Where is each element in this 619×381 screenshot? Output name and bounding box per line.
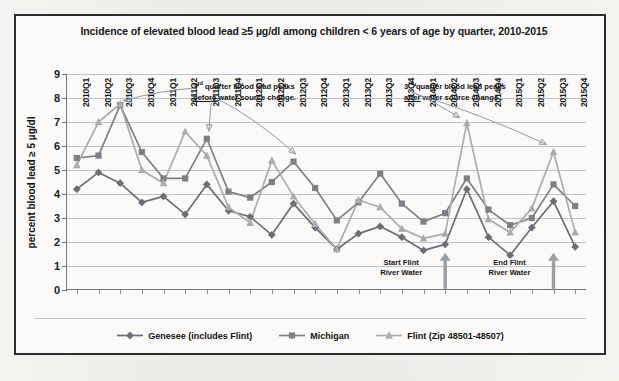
chart-legend: Genesee (includes Flint)MichiganFlint (Z… [16,330,604,341]
y-tick-label: 1 [54,260,60,272]
y-tick-label: 8 [54,92,60,104]
data-point-triangle [441,229,449,236]
legend-divider [34,318,586,319]
y-tick-label: 0 [54,284,60,296]
legend-label: Flint (Zip 48501-48507) [407,331,504,341]
data-point-diamond [420,247,428,255]
legend-label: Michigan [310,331,349,341]
y-tick-mark [62,290,67,291]
data-point-square [334,217,340,223]
series-line [77,172,575,255]
data-point-square [290,159,296,165]
y-tick-label: 4 [54,188,60,200]
annotation-before-line2: before water source change. [193,92,296,103]
y-tick-label: 2 [54,236,60,248]
data-point-triangle [528,204,536,211]
data-point-square [485,207,491,213]
annotation-before-line1: 3rd quarter blood lead peaks [193,78,296,92]
data-point-square [139,149,145,155]
y-tick-label: 5 [54,164,60,176]
data-point-square [529,215,535,221]
data-point-square [74,155,80,161]
annotation-before-water-change: 3rd quarter blood lead peaks before wate… [193,78,296,103]
data-point-triangle [138,166,146,173]
y-tick-label: 6 [54,140,60,152]
data-point-square [289,332,295,338]
y-axis-label: percent blood lead ≥ 5 µg/dl [24,74,40,290]
annotation-end-line1: End Flint [478,258,542,268]
data-point-square [204,136,210,142]
data-point-square [182,175,188,181]
data-point-triangle [268,156,276,163]
data-point-square [225,189,231,195]
y-tick-label: 9 [54,68,60,80]
legend-item-diamond[interactable]: Genesee (includes Flint) [116,330,252,341]
data-point-square [95,153,101,159]
legend-key-diamond-icon [116,330,144,341]
chart-title: Incidence of elevated blood lead ≥5 µg/d… [56,24,572,39]
data-point-diamond [398,233,406,241]
annotation-after-line1: 3rd quarter blood lead peaks [404,78,506,92]
annotation-after-line2: after water source change . [404,92,506,103]
legend-key-square-icon [278,330,306,341]
data-point-diamond [441,241,449,249]
data-point-triangle [463,119,471,126]
annotation-start-line1: Start Flint [369,258,433,268]
data-point-square [399,201,405,207]
data-point-square [572,203,578,209]
data-point-triangle [181,127,189,134]
annotation-end-flint-river-water: End Flint River Water [478,258,542,278]
data-point-square [312,185,318,191]
data-point-square [420,219,426,225]
annotation-end-line2: River Water [478,268,542,278]
annotation-start-line2: River Water [369,268,433,278]
data-point-square [377,171,383,177]
y-tick-label: 7 [54,116,60,128]
data-point-square [247,195,253,201]
legend-item-triangle[interactable]: Flint (Zip 48501-48507) [375,330,504,341]
legend-item-square[interactable]: Michigan [278,330,349,341]
y-axis-label-text: percent blood lead ≥ 5 µg/dl [27,116,38,248]
data-point-square [507,222,513,228]
data-point-triangle [571,228,579,235]
legend-key-triangle-icon [375,330,403,341]
data-point-diamond [571,243,579,251]
series-line [77,105,575,225]
data-point-triangle [485,215,493,222]
y-tick-label: 3 [54,212,60,224]
data-point-square [269,179,275,185]
annotation-after-water-change: 3rd quarter blood lead peaks after water… [404,78,506,103]
series-line [77,104,575,249]
data-point-triangle [550,148,558,155]
data-point-square [464,175,470,181]
data-point-square [550,181,556,187]
legend-label: Genesee (includes Flint) [148,331,252,341]
data-point-diamond [126,332,134,340]
data-point-triangle [73,161,81,168]
data-point-diamond [376,223,384,231]
data-point-diamond [463,185,471,193]
figure-frame: Incidence of elevated blood lead ≥5 µg/d… [14,14,606,355]
annotation-start-flint-river-water: Start Flint River Water [369,258,433,278]
data-point-square [442,210,448,216]
